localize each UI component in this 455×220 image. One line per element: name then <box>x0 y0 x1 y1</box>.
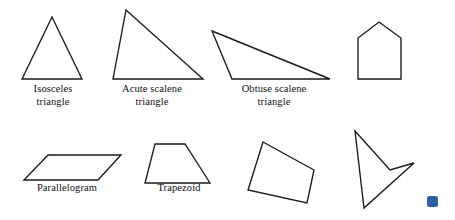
shape-acute-scalene-triangle <box>113 10 203 79</box>
shape-obtuse-scalene-triangle <box>212 31 330 79</box>
caption-isosceles-triangle: Isosceles triangle <box>14 83 92 108</box>
caption-acute-scalene-triangle: Acute scalene triangle <box>104 83 200 108</box>
polygon-figure: Isosceles triangle Acute scalene triangl… <box>0 0 455 220</box>
shape-trapezoid <box>145 144 210 183</box>
shape-convex-quadrilateral <box>248 142 314 203</box>
caption-obtuse-scalene-triangle: Obtuse scalene triangle <box>224 83 324 108</box>
caption-trapezoid: Trapezoid <box>138 182 220 195</box>
shape-concave-dart-quadrilateral <box>355 131 414 208</box>
caption-parallelogram: Parallelogram <box>12 182 122 195</box>
blue-square-marker-icon <box>427 196 438 207</box>
shape-pentagon-house <box>358 22 401 79</box>
shape-parallelogram <box>24 155 121 180</box>
shape-isosceles-triangle <box>22 17 82 79</box>
